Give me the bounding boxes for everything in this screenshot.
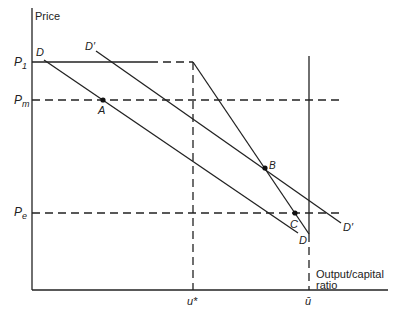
point-b-label: B <box>269 160 276 171</box>
demand-curve-d <box>44 60 298 233</box>
curve-d-top-label: D <box>36 46 44 58</box>
point-a-label: A <box>97 104 105 116</box>
pe-label: Pe <box>14 205 27 221</box>
pm-label: Pm <box>14 93 30 109</box>
curve-dprime-top-label: D′ <box>85 40 96 52</box>
point-a <box>100 97 105 102</box>
kinked-supply-line <box>193 62 309 234</box>
point-c <box>292 210 297 215</box>
y-axis-label: Price <box>35 10 60 22</box>
u-star-tick-label: u* <box>187 295 198 307</box>
price-output-diagram: Price P1 Pm Pe D D′ A B C D D′ Output/ca… <box>0 0 402 322</box>
curve-dprime-bottom-label: D′ <box>343 221 354 233</box>
point-c-label: C <box>290 218 298 230</box>
demand-curve-d-prime <box>96 51 341 223</box>
u-bar-tick-label: ū <box>305 295 311 307</box>
curve-d-bottom-label: D <box>299 234 307 246</box>
point-b <box>262 165 267 170</box>
p1-label: P1 <box>14 55 27 71</box>
x-axis-label-line2: ratio <box>316 279 337 291</box>
